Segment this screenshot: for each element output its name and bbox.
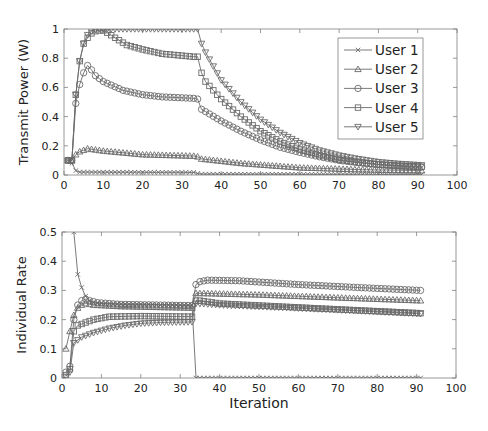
- x-tick-label: 30: [173, 382, 187, 395]
- legend-label: User 4: [375, 100, 419, 116]
- legend-label: User 3: [375, 80, 419, 96]
- x-tick-label: 20: [136, 179, 150, 192]
- x-tick-label: 50: [254, 179, 268, 192]
- series-user-2: [63, 290, 424, 351]
- legend-label: User 5: [375, 119, 419, 135]
- series-user-5: [63, 301, 424, 380]
- y-tick-label: 1: [52, 23, 59, 36]
- y-tick-label: 0: [52, 169, 59, 182]
- y-tick-label: 0.4: [42, 111, 60, 124]
- y-tick-label: 0.1: [40, 343, 58, 356]
- x-marker-icon: [68, 128, 72, 132]
- x-tick-label: 10: [94, 382, 108, 395]
- x-tick-label: 90: [411, 179, 425, 192]
- x-tick-label: 70: [332, 179, 346, 192]
- y-tick-label: 0.4: [40, 255, 58, 268]
- x-tick-label: 40: [214, 179, 228, 192]
- x-tick-label: 40: [213, 382, 227, 395]
- x-tick-label: 20: [134, 382, 148, 395]
- legend-label: User 2: [375, 61, 419, 77]
- x-tick-label: 30: [175, 179, 189, 192]
- y-tick-label: 0: [50, 372, 57, 385]
- x-tick-label: 60: [293, 179, 307, 192]
- x-tick-label: 50: [252, 382, 266, 395]
- y-tick-label: 0.6: [42, 81, 60, 94]
- x-marker-icon: [74, 168, 78, 172]
- legend-label: User 1: [375, 42, 419, 58]
- y-tick-label: 0.8: [42, 52, 60, 65]
- x-tick-label: 60: [291, 382, 305, 395]
- x-tick-label: 100: [446, 382, 467, 395]
- x-tick-label: 70: [331, 382, 345, 395]
- x-tick-label: 80: [371, 179, 385, 192]
- legend: User 1User 2User 3User 4User 5: [338, 38, 423, 139]
- x-tick-label: 0: [61, 179, 68, 192]
- axes-box: [62, 232, 456, 378]
- x-tick-label: 10: [96, 179, 110, 192]
- x-tick-label: 100: [447, 179, 468, 192]
- y-tick-label: 0.2: [42, 140, 60, 153]
- x-axis-label: Iteration: [229, 395, 288, 411]
- series-line: [66, 304, 421, 377]
- figure: 010203040506070809010000.20.40.60.81Tran…: [0, 0, 488, 431]
- y-axis-label: Transmit Power (W): [16, 39, 31, 166]
- x-tick-label: 80: [370, 382, 384, 395]
- y-axis-label: Individual Rate: [14, 256, 29, 353]
- y-tick-label: 0.2: [40, 314, 58, 327]
- series-user-2: [65, 146, 425, 174]
- x-tick-label: 90: [410, 382, 424, 395]
- y-tick-label: 0.3: [40, 284, 58, 297]
- x-tick-label: 0: [59, 382, 66, 395]
- y-tick-label: 0.5: [40, 226, 58, 239]
